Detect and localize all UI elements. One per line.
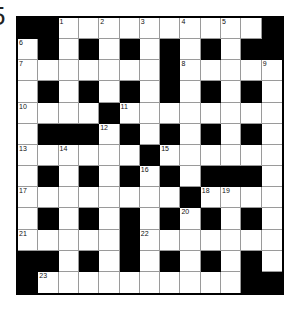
answer-cell[interactable] [99, 39, 119, 60]
answer-cell[interactable] [99, 251, 119, 272]
answer-cell[interactable]: 5 [221, 18, 241, 39]
answer-cell[interactable] [59, 230, 79, 251]
answer-cell[interactable] [241, 230, 261, 251]
answer-cell[interactable] [201, 145, 221, 166]
answer-cell[interactable] [180, 103, 200, 124]
answer-cell[interactable] [140, 272, 160, 293]
answer-cell[interactable]: 15 [160, 145, 180, 166]
answer-cell[interactable] [221, 251, 241, 272]
answer-cell[interactable] [59, 103, 79, 124]
answer-cell[interactable] [221, 81, 241, 102]
answer-cell[interactable] [160, 187, 180, 208]
answer-cell[interactable] [241, 103, 261, 124]
answer-cell[interactable] [262, 208, 282, 229]
answer-cell[interactable] [180, 166, 200, 187]
answer-cell[interactable] [180, 251, 200, 272]
answer-cell[interactable] [38, 60, 58, 81]
answer-cell[interactable] [120, 60, 140, 81]
answer-cell[interactable] [262, 187, 282, 208]
answer-cell[interactable]: 19 [221, 187, 241, 208]
answer-cell[interactable] [262, 124, 282, 145]
answer-cell[interactable] [221, 208, 241, 229]
answer-cell[interactable] [99, 187, 119, 208]
answer-cell[interactable] [262, 103, 282, 124]
answer-cell[interactable] [180, 81, 200, 102]
answer-cell[interactable] [262, 230, 282, 251]
answer-cell[interactable] [79, 60, 99, 81]
answer-cell[interactable]: 16 [140, 166, 160, 187]
answer-cell[interactable]: 6 [18, 39, 38, 60]
answer-cell[interactable] [201, 230, 221, 251]
answer-cell[interactable]: 23 [38, 272, 58, 293]
answer-cell[interactable] [180, 272, 200, 293]
answer-cell[interactable]: 17 [18, 187, 38, 208]
answer-cell[interactable] [59, 81, 79, 102]
answer-cell[interactable] [221, 230, 241, 251]
answer-cell[interactable] [18, 81, 38, 102]
answer-cell[interactable] [99, 208, 119, 229]
answer-cell[interactable] [18, 166, 38, 187]
answer-cell[interactable] [241, 60, 261, 81]
answer-cell[interactable] [99, 272, 119, 293]
answer-cell[interactable]: 14 [59, 145, 79, 166]
answer-cell[interactable] [221, 272, 241, 293]
answer-cell[interactable] [221, 145, 241, 166]
answer-cell[interactable] [140, 124, 160, 145]
answer-cell[interactable] [160, 272, 180, 293]
answer-cell[interactable] [59, 166, 79, 187]
answer-cell[interactable]: 7 [18, 60, 38, 81]
answer-cell[interactable] [38, 230, 58, 251]
answer-cell[interactable] [160, 18, 180, 39]
answer-cell[interactable] [59, 187, 79, 208]
answer-cell[interactable] [79, 18, 99, 39]
answer-cell[interactable]: 12 [99, 124, 119, 145]
answer-cell[interactable] [241, 18, 261, 39]
answer-cell[interactable] [140, 103, 160, 124]
answer-cell[interactable]: 4 [180, 18, 200, 39]
answer-cell[interactable] [59, 39, 79, 60]
answer-cell[interactable] [241, 145, 261, 166]
answer-cell[interactable]: 18 [201, 187, 221, 208]
answer-cell[interactable] [59, 251, 79, 272]
answer-cell[interactable]: 10 [18, 103, 38, 124]
answer-cell[interactable] [99, 81, 119, 102]
answer-cell[interactable] [79, 145, 99, 166]
answer-cell[interactable]: 3 [140, 18, 160, 39]
answer-cell[interactable] [201, 18, 221, 39]
answer-cell[interactable] [262, 166, 282, 187]
answer-cell[interactable] [160, 230, 180, 251]
answer-cell[interactable] [201, 103, 221, 124]
answer-cell[interactable] [120, 187, 140, 208]
answer-cell[interactable] [180, 39, 200, 60]
answer-cell[interactable] [140, 39, 160, 60]
answer-cell[interactable] [262, 251, 282, 272]
answer-cell[interactable] [18, 208, 38, 229]
answer-cell[interactable] [79, 230, 99, 251]
answer-cell[interactable] [38, 103, 58, 124]
answer-cell[interactable] [221, 60, 241, 81]
answer-cell[interactable] [79, 187, 99, 208]
answer-cell[interactable] [180, 145, 200, 166]
answer-cell[interactable] [99, 230, 119, 251]
answer-cell[interactable]: 11 [120, 103, 140, 124]
answer-cell[interactable]: 2 [99, 18, 119, 39]
answer-cell[interactable] [18, 124, 38, 145]
answer-cell[interactable] [140, 81, 160, 102]
answer-cell[interactable]: 9 [262, 60, 282, 81]
answer-cell[interactable] [180, 124, 200, 145]
answer-cell[interactable] [160, 103, 180, 124]
answer-cell[interactable]: 8 [180, 60, 200, 81]
answer-cell[interactable] [241, 187, 261, 208]
answer-cell[interactable] [262, 145, 282, 166]
answer-cell[interactable] [201, 272, 221, 293]
answer-cell[interactable] [140, 60, 160, 81]
answer-cell[interactable] [140, 208, 160, 229]
answer-cell[interactable] [99, 145, 119, 166]
answer-cell[interactable] [120, 18, 140, 39]
answer-cell[interactable] [38, 187, 58, 208]
answer-cell[interactable] [140, 251, 160, 272]
answer-cell[interactable]: 13 [18, 145, 38, 166]
answer-cell[interactable] [38, 145, 58, 166]
answer-cell[interactable]: 22 [140, 230, 160, 251]
answer-cell[interactable] [120, 145, 140, 166]
